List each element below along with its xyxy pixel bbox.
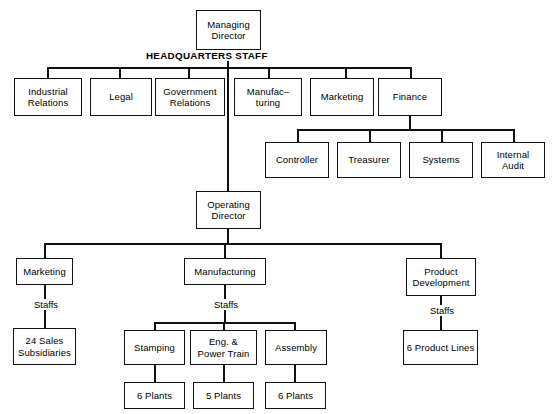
- node-internal-audit[interactable]: Internal Audit: [481, 142, 545, 178]
- node-manufacturing-hq[interactable]: Manufac– turing: [234, 78, 302, 116]
- connector-finance-stem: [409, 116, 411, 130]
- node-stamping[interactable]: Stamping: [124, 330, 185, 365]
- connector-md-to-operating-director: [227, 67, 229, 191]
- connector-eng-to-plants: [223, 365, 225, 382]
- connector-manufacturing-sub-bus: [154, 322, 296, 324]
- node-product-development[interactable]: Product Development: [406, 258, 476, 296]
- node-operating-director[interactable]: Operating Director: [196, 191, 261, 229]
- node-eng-plants[interactable]: 5 Plants: [193, 382, 254, 409]
- node-legal[interactable]: Legal: [90, 78, 152, 116]
- headquarters-staff-label: HEADQUARTERS STAFF: [145, 50, 269, 61]
- connector-drop-eng-power-train: [223, 322, 225, 330]
- org-chart-canvas: Managing Director HEADQUARTERS STAFF Ind…: [0, 0, 557, 414]
- node-controller[interactable]: Controller: [265, 142, 329, 178]
- connector-drop-manufacturing-ops: [224, 243, 226, 258]
- connector-drop-finance: [410, 67, 412, 78]
- connector-stamping-to-plants: [154, 365, 156, 382]
- connector-hq-bus: [47, 67, 412, 69]
- node-managing-director[interactable]: Managing Director: [196, 10, 261, 50]
- node-finance[interactable]: Finance: [378, 78, 442, 116]
- connector-drop-internal-audit: [513, 129, 515, 142]
- node-government-relations[interactable]: Government Relations: [155, 78, 225, 116]
- connector-operating-director-stem: [227, 229, 229, 244]
- staffs-label-marketing: Staffs: [25, 299, 67, 310]
- node-stamping-plants[interactable]: 6 Plants: [124, 382, 185, 409]
- node-product-lines[interactable]: 6 Product Lines: [403, 330, 478, 365]
- connector-drop-government-relations: [188, 67, 190, 78]
- node-assembly[interactable]: Assembly: [265, 330, 327, 365]
- connector-drop-treasurer: [369, 129, 371, 142]
- connector-drop-legal: [119, 67, 121, 78]
- connector-drop-marketing-hq: [345, 67, 347, 78]
- connector-drop-product-development: [440, 243, 442, 258]
- node-sales-subsidiaries[interactable]: 24 Sales Subsidiaries: [13, 328, 76, 365]
- connector-drop-industrial-relations: [47, 67, 49, 78]
- connector-drop-stamping: [154, 322, 156, 330]
- connector-division-bus: [44, 243, 441, 245]
- staffs-label-product-dev: Staffs: [421, 305, 463, 316]
- connector-drop-manufacturing-hq: [268, 67, 270, 78]
- node-manufacturing-ops[interactable]: Manufacturing: [184, 258, 266, 285]
- node-industrial-relations[interactable]: Industrial Relations: [14, 78, 82, 116]
- node-marketing-ops[interactable]: Marketing: [16, 258, 73, 285]
- staffs-label-manufacturing: Staffs: [205, 299, 247, 310]
- node-treasurer[interactable]: Treasurer: [337, 142, 401, 178]
- connector-drop-systems: [441, 129, 443, 142]
- connector-drop-assembly: [294, 322, 296, 330]
- connector-assembly-to-plants: [294, 365, 296, 382]
- node-eng-power-train[interactable]: Eng. & Power Train: [190, 330, 257, 365]
- node-marketing-hq[interactable]: Marketing: [310, 78, 374, 116]
- connector-finance-bus: [297, 129, 515, 131]
- connector-drop-marketing-ops: [44, 243, 46, 258]
- node-systems[interactable]: Systems: [409, 142, 473, 178]
- node-assembly-plants[interactable]: 6 Plants: [265, 382, 326, 409]
- connector-drop-controller: [297, 129, 299, 142]
